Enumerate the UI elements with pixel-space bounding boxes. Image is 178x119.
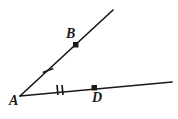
ray-ab-line [20, 10, 113, 96]
point-label-a: A [9, 94, 18, 108]
geometry-canvas [0, 0, 178, 119]
tick-mark-double-ad [57, 85, 63, 95]
point-label-b: B [66, 27, 75, 41]
point-dot-b [73, 42, 79, 48]
point-label-d: D [92, 91, 102, 105]
geometry-figure: A B D [0, 0, 178, 119]
